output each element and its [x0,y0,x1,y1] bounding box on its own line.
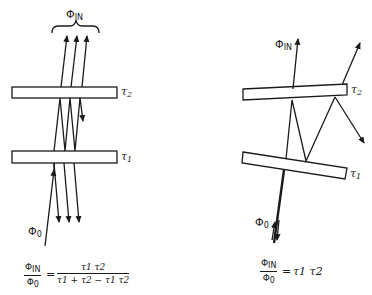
back-reflected-ray-1 [54,163,59,222]
incident-ray-phi0 [45,170,54,246]
phi0-label-left: Φ0 [28,226,42,239]
reflected-down-ray [80,98,83,121]
formula-right-lhs: ΦIN Φ0 [260,258,277,285]
diagram-graphics [0,0,372,295]
incident-ray-phi0-right [274,170,284,243]
transmitted-ray-1 [61,36,67,87]
tau1-label-left: τ1 [121,151,132,164]
plate-tau2-right [243,84,347,100]
back-reflected-ray-3 [74,163,79,222]
tau1-label-right: τ1 [350,168,361,181]
formula-right-equals: = [282,265,291,278]
multiple-reflection-path [54,98,80,151]
transmitted-ray-2 [71,36,77,87]
left-configuration [12,20,117,246]
formula-left-lhs: ΦIN Φ0 [24,262,41,289]
escaping-ray-right [342,43,360,85]
phi0-label-right: Φ0 [255,217,269,230]
tau2-label-left: τ2 [121,86,132,99]
phi-in-label-left: ΦIN [66,9,83,22]
plate-tau1-left [12,151,117,163]
transmitted-ray-right [293,39,298,89]
tau2-label-right: τ2 [351,84,362,97]
back-reflected-ray-2 [64,163,69,222]
phi-in-label-right: ΦIN [275,39,292,52]
formula-right-rhs: τ1 τ2 [293,265,323,278]
transmitted-ray-3 [82,36,87,87]
plate-tau1-right [242,152,347,179]
formula-left-equals: = [46,268,55,281]
right-configuration [242,39,364,243]
reflected-out-ray-right [335,97,364,143]
diagram-canvas: ΦIN τ2 τ1 Φ0 ΦIN Φ0 = τ1 τ2 τ1 + τ2 − τ1… [0,0,372,295]
walk-off-reflection-path [286,97,335,161]
plate-tau2-left [12,87,117,98]
formula-left-rhs: τ1 τ2 τ1 + τ2 − τ1 τ2 [57,262,129,285]
